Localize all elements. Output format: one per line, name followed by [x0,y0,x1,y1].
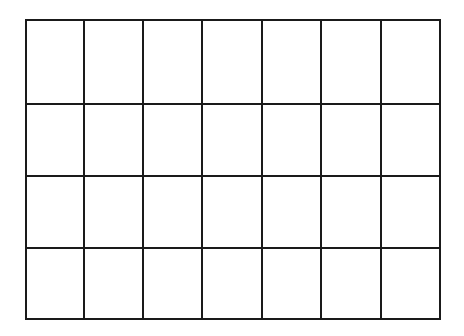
grid-cell [143,20,202,104]
empty-grid [0,0,464,336]
grid-cell [381,176,440,248]
grid-cell [26,248,84,319]
grid-cell [381,248,440,319]
grid-cell [84,104,143,176]
grid-cell [262,176,321,248]
grid-cell [262,20,321,104]
grid-cell [381,104,440,176]
grid-cell [143,104,202,176]
grid-cell [321,20,381,104]
grid-cell [202,248,262,319]
grid-cell [381,20,440,104]
grid-cell [202,104,262,176]
grid-cell [84,248,143,319]
grid-cell [262,104,321,176]
grid-cell [202,176,262,248]
grid-cell [321,176,381,248]
grid-cell [321,248,381,319]
grid-cell [26,104,84,176]
grid-cell [202,20,262,104]
grid-cell [84,20,143,104]
grid-cell [26,176,84,248]
grid-cell [321,104,381,176]
grid-cell [143,176,202,248]
grid-cell [143,248,202,319]
grid-cell [262,248,321,319]
grid-cell [26,20,84,104]
grid-cell [84,176,143,248]
